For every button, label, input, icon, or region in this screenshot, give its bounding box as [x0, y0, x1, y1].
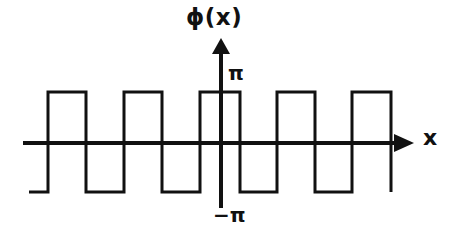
- x-axis-label: x: [423, 127, 437, 149]
- y-axis-label: ϕ(x): [186, 6, 242, 29]
- arrow-up-icon: [212, 38, 230, 54]
- y-tick-label-negative-pi: −π: [213, 205, 246, 225]
- arrow-right-icon: [394, 134, 414, 152]
- square-wave-figure: ϕ(x) x π −π: [0, 0, 455, 235]
- plot-canvas: [0, 0, 455, 235]
- y-tick-label-pi: π: [228, 63, 244, 83]
